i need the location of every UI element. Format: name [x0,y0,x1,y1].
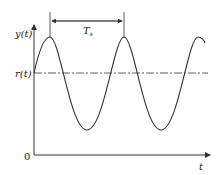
x-axis-label: t [199,161,204,172]
oscillation-diagram: y(t) r(t) 0 t Ts [0,0,223,175]
response-curve [34,37,205,130]
period-label: Ts [83,25,93,37]
y-axis-label: y(t) [14,28,33,39]
origin-label: 0 [24,151,30,162]
ref-label: r(t) [15,68,32,79]
